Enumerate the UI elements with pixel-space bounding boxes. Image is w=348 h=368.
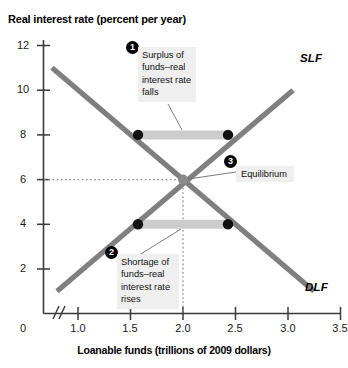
x-tick-label-3-0: 3.0 <box>272 322 304 334</box>
shortage-callout-line-1: Shortage of <box>121 256 175 268</box>
y-tick-label-4: 4 <box>12 217 34 229</box>
equilibrium-callout: Equilibrium <box>236 166 294 182</box>
shortage-callout-line-2: funds–real <box>121 268 175 280</box>
x-tick-label-1-5: 1.5 <box>114 322 146 334</box>
surplus-callout: Surplus of funds–real interest rate fall… <box>138 47 196 102</box>
x-axis-title: Loanable funds (trillions of 2009 dollar… <box>0 344 348 356</box>
surplus-leader-line <box>168 104 182 130</box>
surplus-right-point <box>223 130 233 140</box>
origin-label: 0 <box>12 322 34 334</box>
y-tick-label-10: 10 <box>12 83 34 95</box>
shortage-right-point <box>223 219 233 229</box>
shortage-callout-line-3: interest rate <box>121 281 175 293</box>
surplus-callout-line-1: Surplus of <box>142 49 192 61</box>
x-tick-label-3-5: 3.5 <box>324 322 348 334</box>
demand-curve-label: DLF <box>305 281 328 293</box>
shortage-callout: Shortage of funds–real interest rate ris… <box>117 254 179 309</box>
surplus-callout-line-3: interest rate <box>142 74 192 86</box>
surplus-callout-line-4: falls <box>142 86 192 98</box>
y-tick-label-2: 2 <box>12 262 34 274</box>
surplus-callout-line-2: funds–real <box>142 61 192 73</box>
equilibrium-point <box>178 175 188 185</box>
y-tick-label-6: 6 <box>12 173 34 185</box>
shortage-left-point <box>133 219 143 229</box>
x-tick-label-2-0: 2.0 <box>167 322 199 334</box>
y-tick-label-12: 12 <box>12 39 34 51</box>
x-tick-label-2-5: 2.5 <box>219 322 251 334</box>
axis-break-icon <box>53 306 65 319</box>
equilibrium-callout-text: Equilibrium <box>241 168 290 180</box>
surplus-left-point <box>133 130 143 140</box>
supply-curve-label: SLF <box>300 52 322 64</box>
loanable-funds-market-figure: Real interest rate (percent per year) <box>0 0 348 368</box>
shortage-callout-line-4: rises <box>121 293 175 305</box>
y-tick-label-8: 8 <box>12 128 34 140</box>
x-tick-label-1-0: 1.0 <box>62 322 94 334</box>
